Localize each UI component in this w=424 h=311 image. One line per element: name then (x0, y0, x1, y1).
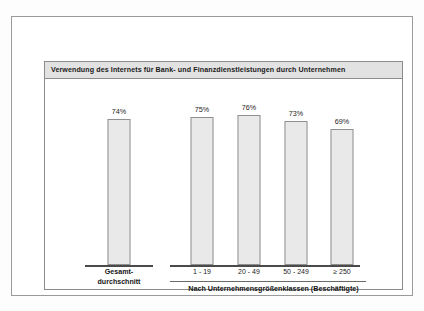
bar-column[interactable] (238, 115, 261, 265)
axis-baseline-size (170, 265, 360, 267)
x-axis-title: Nach Unternehmensgrößenklassen (Beschäft… (161, 284, 386, 293)
bar-slot: 76% (227, 79, 271, 265)
chart-screenshot: Verwendung des Internets für Bank- und F… (0, 0, 424, 311)
plot-area: 74% Gesamt- durchschnitt (45, 79, 402, 289)
bar-column[interactable] (285, 121, 308, 265)
bar-slot: 75% (180, 79, 224, 265)
tick-label-250-plus: ≥ 250 (318, 268, 366, 275)
chart-group-total-average: 74% Gesamt- durchschnitt (73, 79, 165, 291)
bar-value-label: 74% (99, 107, 139, 116)
chart-title: Verwendung des Internets für Bank- und F… (45, 66, 345, 74)
bar-rect[interactable] (331, 129, 354, 265)
bars-row-total: 74% (73, 79, 165, 265)
bar-column[interactable] (331, 129, 354, 265)
bar-slot: 73% (274, 79, 318, 265)
axis-baseline-total (85, 265, 153, 267)
chart-title-bar: Verwendung des Internets für Bank- und F… (45, 62, 402, 79)
tick-label-row: 1 - 19 20 - 49 50 - 249 ≥ 250 (161, 268, 386, 281)
bar-slot: 69% (320, 79, 364, 265)
bar-rect[interactable] (191, 117, 214, 265)
total-average-caption: Gesamt- durchschnitt (73, 268, 165, 287)
bar-slot: 74% (97, 79, 141, 265)
tick-label-1-19: 1 - 19 (178, 268, 226, 275)
total-average-caption-line1: Gesamt- (73, 268, 165, 278)
bar-rect[interactable] (238, 115, 261, 265)
tick-label-20-49: 20 - 49 (225, 268, 273, 275)
bar-column[interactable] (191, 117, 214, 265)
tick-label-50-249: 50 - 249 (272, 268, 320, 275)
figure-panel: Verwendung des Internets für Bank- und F… (44, 61, 403, 290)
bar-rect[interactable] (108, 119, 131, 265)
total-average-caption-line2: durchschnitt (73, 278, 165, 288)
chart-group-size-classes: 75% 76% 73% (161, 79, 386, 291)
bars-row-size: 75% 76% 73% (161, 79, 386, 265)
bar-value-label: 75% (182, 105, 222, 114)
page-frame: Verwendung des Internets für Bank- und F… (11, 16, 413, 296)
bar-column[interactable] (108, 119, 131, 265)
axis-rule-under-ticks (170, 281, 366, 282)
bar-value-label: 69% (322, 117, 362, 126)
bar-rect[interactable] (285, 121, 308, 265)
bar-value-label: 76% (229, 103, 269, 112)
bar-value-label: 73% (276, 109, 316, 118)
